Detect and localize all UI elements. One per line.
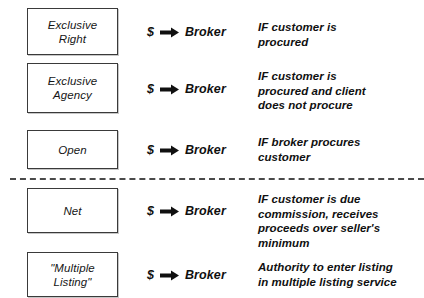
dollar-symbol: $ — [147, 205, 154, 218]
payee-label: Broker — [185, 269, 226, 282]
agreement-type-label: Open — [58, 143, 87, 157]
agreement-type-box: Exclusive Right — [27, 8, 118, 55]
agreement-type-label: Exclusive Right — [48, 18, 97, 46]
payee-label: Broker — [185, 144, 226, 157]
right-arrow-icon — [160, 206, 179, 217]
right-arrow-icon — [160, 27, 179, 38]
dashed-divider — [10, 178, 424, 180]
agreement-type-label: Net — [63, 204, 81, 218]
payment-flow: $ Broker — [147, 142, 226, 158]
payment-flow: $ Broker — [147, 203, 226, 219]
condition-text: IF customer is procured and client does … — [258, 69, 424, 113]
payee-label: Broker — [185, 83, 226, 96]
right-arrow-icon — [160, 84, 179, 95]
agreement-type-box: "Multiple Listing" — [27, 252, 118, 297]
dollar-symbol: $ — [147, 83, 154, 96]
condition-text: Authority to enter listing in multiple l… — [258, 260, 424, 289]
listing-agreement-diagram: Exclusive Right $ Broker IF customer is … — [0, 0, 424, 298]
agreement-type-box: Net — [27, 188, 118, 233]
dollar-symbol: $ — [147, 269, 154, 282]
dollar-symbol: $ — [147, 144, 154, 157]
agreement-type-label: "Multiple Listing" — [50, 261, 95, 289]
payee-label: Broker — [185, 26, 226, 39]
payment-flow: $ Broker — [147, 81, 226, 97]
right-arrow-icon — [160, 145, 179, 156]
agreement-type-box: Exclusive Agency — [27, 63, 118, 113]
agreement-type-label: Exclusive Agency — [48, 74, 97, 102]
condition-text: IF customer is due commission, receives … — [258, 192, 424, 250]
condition-text: IF customer is procured — [258, 20, 424, 49]
payee-label: Broker — [185, 205, 226, 218]
condition-text: IF broker procures customer — [258, 135, 424, 164]
dollar-symbol: $ — [147, 26, 154, 39]
payment-flow: $ Broker — [147, 24, 226, 40]
agreement-type-box: Open — [27, 130, 118, 169]
payment-flow: $ Broker — [147, 267, 226, 283]
right-arrow-icon — [160, 270, 179, 281]
